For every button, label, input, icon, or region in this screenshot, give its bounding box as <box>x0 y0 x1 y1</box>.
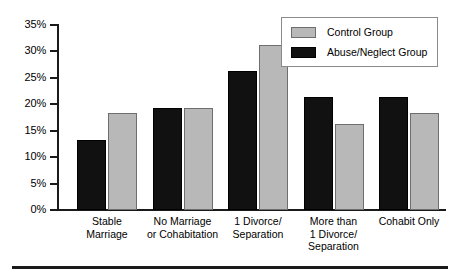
x-axis-group-label-line: Separation <box>287 240 381 253</box>
bar-abuse-neglect-group <box>153 108 182 210</box>
y-axis-tick-label: 15% <box>6 125 46 136</box>
y-axis-tick-label: 5% <box>6 178 46 189</box>
y-axis-tick-label: 10% <box>6 151 46 162</box>
chart-legend: Control Group Abuse/Neglect Group <box>281 17 438 67</box>
x-axis-group-label: Cohabit Only <box>362 215 456 228</box>
y-axis-tick-label: 30% <box>6 45 46 56</box>
bar-control-group <box>184 108 213 210</box>
bar-abuse-neglect-group <box>77 140 106 210</box>
y-axis-tick-mark <box>50 209 57 211</box>
bar-abuse-neglect-group <box>379 97 408 210</box>
y-axis-tick-mark <box>50 130 57 132</box>
bar-control-group <box>335 124 364 210</box>
legend-swatch-gray-icon <box>291 27 316 38</box>
y-axis-tick-mark <box>50 156 57 158</box>
bottom-divider-rule <box>12 266 448 269</box>
bar-abuse-neglect-group <box>228 71 257 210</box>
legend-item-control-group: Control Group <box>291 25 393 39</box>
legend-label-control-group: Control Group <box>327 27 393 38</box>
y-axis-tick-label: 20% <box>6 98 46 109</box>
bar-chart-figure: 0%5%10%15%20%25%30%35% StableMarriageNo … <box>0 0 460 280</box>
y-axis-tick-mark <box>50 50 57 52</box>
y-axis-tick-mark <box>50 183 57 185</box>
legend-item-abuse-neglect-group: Abuse/Neglect Group <box>291 45 427 59</box>
y-axis-tick-mark <box>50 103 57 105</box>
x-axis-group-label-line: Cohabit Only <box>362 215 456 228</box>
legend-swatch-black-icon <box>291 47 316 58</box>
y-axis-tick-label: 25% <box>6 72 46 83</box>
y-axis-tick-mark <box>50 24 57 26</box>
y-axis-tick-mark <box>50 77 57 79</box>
bar-control-group <box>259 45 288 210</box>
y-axis-tick-label: 35% <box>6 19 46 30</box>
bar-abuse-neglect-group <box>304 97 333 210</box>
legend-label-abuse-neglect-group: Abuse/Neglect Group <box>327 47 427 58</box>
x-axis-group-label-line: 1 Divorce/ <box>287 228 381 241</box>
y-axis-tick-label: 0% <box>6 204 46 215</box>
bar-control-group <box>410 113 439 210</box>
bar-control-group <box>108 113 137 210</box>
